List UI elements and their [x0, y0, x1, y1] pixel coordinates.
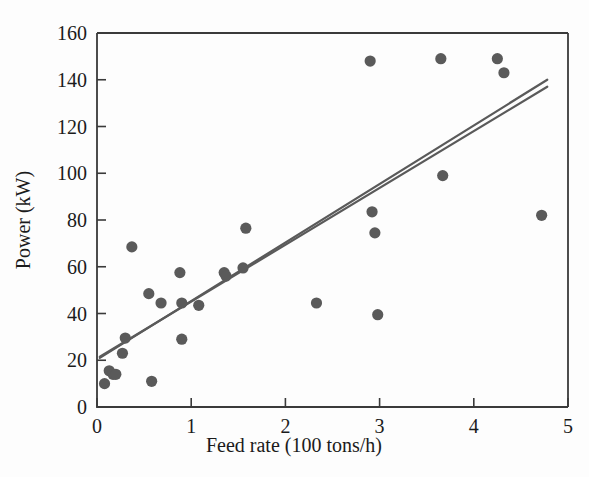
y-tick-label: 120	[57, 116, 87, 138]
y-tick-label: 0	[77, 396, 87, 418]
y-tick-label: 140	[57, 69, 87, 91]
data-point	[117, 348, 128, 359]
data-point	[174, 267, 185, 278]
data-point	[240, 223, 251, 234]
y-tick-label: 100	[57, 162, 87, 184]
data-point	[369, 227, 380, 238]
data-point	[155, 297, 166, 308]
y-tick-label: 160	[57, 22, 87, 44]
data-point	[492, 53, 503, 64]
x-axis-label: Feed rate (100 tons/h)	[206, 434, 382, 457]
y-tick-label: 60	[67, 256, 87, 278]
data-point	[536, 210, 547, 221]
data-point	[120, 332, 131, 343]
data-point	[176, 334, 187, 345]
data-point	[311, 297, 322, 308]
chart-figure: 020406080100120140160012345 Feed rate (1…	[0, 0, 589, 477]
data-point	[437, 170, 448, 181]
data-point	[126, 241, 137, 252]
data-point	[110, 369, 121, 380]
data-point	[143, 288, 154, 299]
scatter-plot: 020406080100120140160012345 Feed rate (1…	[0, 0, 589, 477]
data-point	[366, 206, 377, 217]
x-tick-label: 1	[186, 415, 196, 437]
data-point	[99, 378, 110, 389]
y-axis-label: Power (kW)	[12, 171, 35, 269]
y-tick-label: 40	[67, 303, 87, 325]
data-point	[146, 376, 157, 387]
data-point	[365, 55, 376, 66]
data-point	[237, 262, 248, 273]
x-tick-label: 5	[563, 415, 573, 437]
data-point	[193, 300, 204, 311]
x-tick-label: 4	[469, 415, 479, 437]
data-point	[498, 67, 509, 78]
data-point	[435, 53, 446, 64]
data-point	[176, 297, 187, 308]
y-tick-label: 20	[67, 349, 87, 371]
y-tick-label: 80	[67, 209, 87, 231]
x-tick-label: 0	[92, 415, 102, 437]
data-point	[220, 271, 231, 282]
data-point	[372, 309, 383, 320]
